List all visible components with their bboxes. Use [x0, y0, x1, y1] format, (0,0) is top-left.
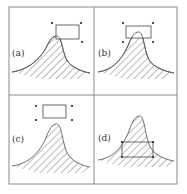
corner-dot — [152, 141, 154, 143]
panel-label: (b) — [98, 48, 111, 58]
hatched-region — [12, 124, 90, 173]
corner-dot — [35, 119, 37, 121]
panel-d: (d) — [98, 116, 174, 167]
panel-label: (c) — [12, 134, 24, 144]
figure-canvas: (a)(b)(c)(d) — [0, 0, 187, 194]
panel-c: (c) — [12, 105, 90, 173]
corner-dot — [71, 105, 73, 107]
corner-dot — [122, 22, 124, 24]
panel-a: (a) — [12, 22, 90, 79]
corner-dot — [121, 141, 123, 143]
corner-dot — [51, 22, 53, 24]
panel-label: (d) — [98, 133, 111, 143]
rectangle — [43, 105, 66, 118]
corner-dot — [152, 41, 154, 43]
corner-dot — [71, 119, 73, 121]
corner-dot — [122, 41, 124, 43]
panel-b: (b) — [98, 22, 174, 79]
panels: (a)(b)(c)(d) — [12, 22, 174, 173]
panel-label: (a) — [12, 48, 24, 58]
corner-dot — [35, 105, 37, 107]
corner-dot — [81, 41, 83, 43]
corner-dot — [80, 22, 82, 24]
corner-dot — [152, 156, 154, 158]
rectangle — [56, 25, 79, 39]
corner-dot — [121, 156, 123, 158]
corner-dot — [152, 22, 154, 24]
